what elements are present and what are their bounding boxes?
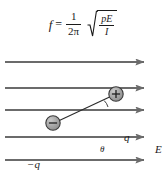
radicand-fraction: pE I	[97, 10, 117, 38]
negative-charge	[46, 116, 60, 130]
positive-charge-label: q	[124, 132, 130, 143]
dipole-diagram: q −q E θ	[0, 44, 166, 172]
fraction-numerator: 1	[69, 11, 79, 24]
formula-fraction: 1 2π	[66, 11, 81, 37]
angle-label: θ	[100, 145, 104, 154]
angle-arc	[104, 101, 108, 107]
formula-block: f = 1 2π pE I	[0, 4, 166, 44]
positive-charge	[109, 87, 123, 101]
radicand-denominator: I	[103, 26, 110, 37]
formula-equals-sign: =	[53, 18, 64, 30]
field-lines-group	[5, 62, 144, 160]
diagram-canvas	[0, 44, 166, 172]
dipole-axis-line	[54, 94, 116, 123]
negative-charge-label: −q	[27, 159, 40, 170]
field-label: E	[155, 144, 162, 155]
fraction-denominator: 2π	[66, 25, 81, 38]
physics-figure: f = 1 2π pE I	[0, 0, 166, 172]
radical-group: pE I	[87, 10, 117, 38]
radicand-numerator: pE	[99, 13, 114, 25]
